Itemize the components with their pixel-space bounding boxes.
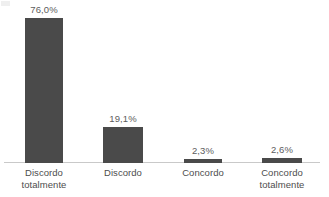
x-axis-category-labels: Discordo totalmente Discordo Concordo Co… [0,165,329,197]
bar-group-concordo-totalmente: 2,6% [262,0,302,163]
bar[interactable] [103,127,143,163]
bar[interactable] [184,159,222,163]
bar-group-discordo: 19,1% [103,0,143,163]
x-axis-tick-label: Concordo totalmente [246,167,318,190]
bar-value-label: 76,0% [30,4,57,15]
bar-group-concordo: 2,3% [184,0,222,163]
bar[interactable] [25,18,63,163]
x-axis-tick-label: Discordo [87,167,159,179]
x-axis-tick-label: Concordo [167,167,239,179]
plot-area: 76,0% 19,1% 2,3% 2,6% [0,0,329,163]
bar-group-discordo-totalmente: 76,0% [25,0,63,163]
bar-chart: 76,0% 19,1% 2,3% 2,6% Discordo totalment… [0,0,329,197]
bar-value-label: 2,3% [192,145,214,156]
x-axis-tick-label: Discordo totalmente [8,167,80,190]
bar-value-label: 2,6% [271,144,293,155]
bar-value-label: 19,1% [109,113,136,124]
bar[interactable] [262,158,302,163]
